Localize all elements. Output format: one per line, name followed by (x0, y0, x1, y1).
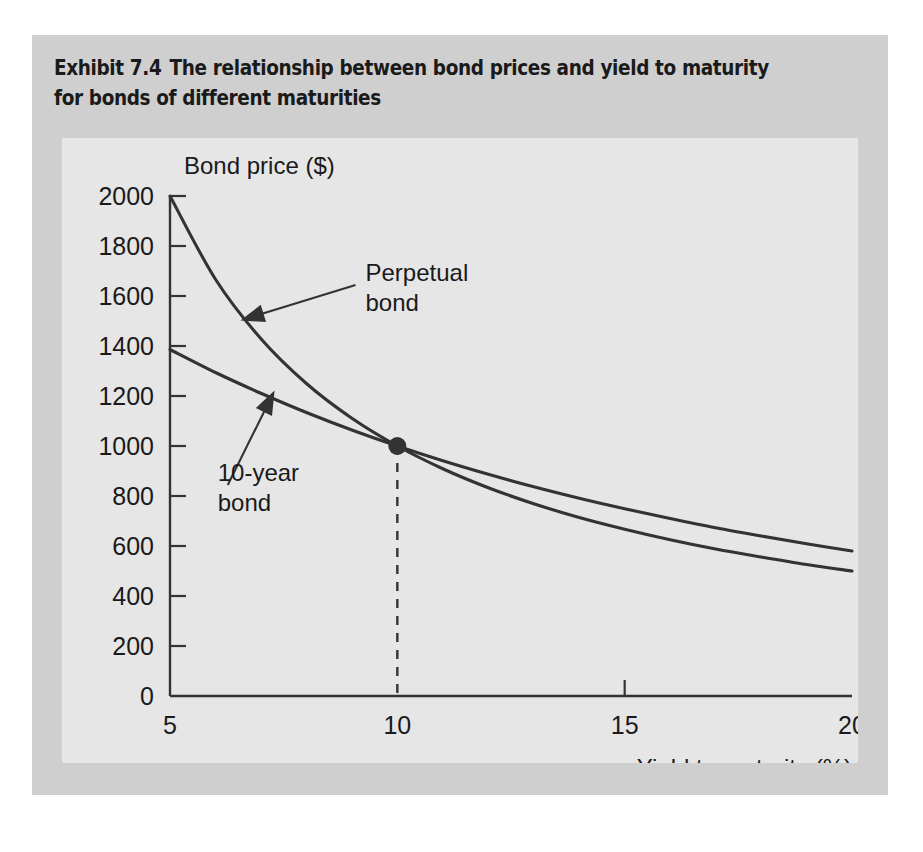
series-perpetual-bond (170, 196, 852, 571)
bond-price-yield-chart: 0200400600800100012001400160018002000 51… (62, 138, 858, 763)
y-tick-label-400: 400 (112, 582, 154, 610)
y-axis-tick-labels: 0200400600800100012001400160018002000 (98, 182, 154, 710)
y-tick-label-1600: 1600 (98, 282, 154, 310)
ten-year-bond-annotation-label: 10-yearbond (218, 459, 299, 516)
y-tick-label-1400: 1400 (98, 332, 154, 360)
y-axis-ticks (170, 196, 186, 646)
chart-annotations: Perpetualbond10-yearbond (218, 259, 469, 516)
y-tick-label-0: 0 (140, 682, 154, 710)
x-tick-label-10: 10 (383, 711, 411, 739)
perpetual-bond-annotation-label: Perpetualbond (366, 259, 469, 316)
x-axis-tick-labels: 5101520 (163, 711, 858, 739)
x-tick-label-15: 15 (611, 711, 639, 739)
y-tick-label-200: 200 (112, 632, 154, 660)
chart-plot-area: 0200400600800100012001400160018002000 51… (62, 138, 858, 763)
perpetual-bond-arrow-head (240, 305, 266, 322)
y-tick-label-2000: 2000 (98, 182, 154, 210)
chart-series (170, 196, 852, 571)
y-axis-title: Bond price ($) (184, 152, 335, 179)
figure-caption: Exhibit 7.4The relationship between bond… (54, 53, 783, 113)
chart-markers (388, 437, 406, 696)
y-tick-label-1800: 1800 (98, 232, 154, 260)
caption-text: The relationship between bond prices and… (54, 56, 769, 110)
series-10-year-bond (170, 350, 852, 552)
intersection-point-dot (388, 437, 406, 455)
y-tick-label-1200: 1200 (98, 382, 154, 410)
y-tick-label-800: 800 (112, 482, 154, 510)
chart-axes (170, 196, 852, 696)
x-tick-label-20: 20 (838, 711, 858, 739)
figure-panel: Exhibit 7.4The relationship between bond… (32, 35, 888, 795)
perpetual-bond-leader-line (260, 285, 356, 315)
y-tick-label-1000: 1000 (98, 432, 154, 460)
exhibit-number: Exhibit 7.4 (54, 56, 161, 80)
x-tick-label-5: 5 (163, 711, 177, 739)
x-axis-title: Yield to maturity (%) (637, 754, 852, 763)
y-tick-label-600: 600 (112, 532, 154, 560)
